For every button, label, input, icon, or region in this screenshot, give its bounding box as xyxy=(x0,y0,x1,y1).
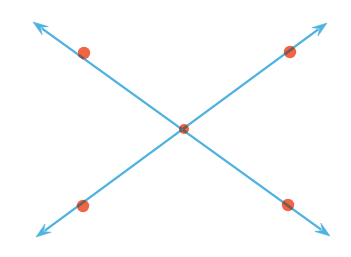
figure-canvas: Two intersecting lines with marked point… xyxy=(0,0,351,257)
figure-background xyxy=(0,0,351,257)
intersecting-lines-diagram: Two intersecting lines with marked point… xyxy=(0,0,351,257)
